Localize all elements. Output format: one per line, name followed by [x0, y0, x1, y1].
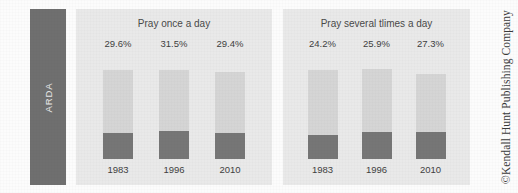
bar-wrap [159, 53, 189, 159]
plot-area: 29.6% 1983 31.5% 1996 29.4% [76, 37, 272, 177]
chart-title: Pray once a day [76, 18, 272, 29]
bar-value-label: 25.9% [363, 37, 390, 50]
source-band: ARDA [30, 9, 66, 185]
bar-category-label: 1996 [163, 163, 184, 177]
bar-group[interactable]: 31.5% 1996 [155, 37, 193, 177]
bar-wrap [362, 53, 392, 159]
bar-group[interactable]: 24.2% 1983 [304, 37, 342, 177]
bar-group[interactable]: 29.4% 2010 [211, 37, 249, 177]
bar-wrap [308, 53, 338, 159]
chart-panel-pray-once-a-day: Pray once a day 29.6% 1983 31.5% 1 [76, 9, 272, 185]
bar-category-label: 1983 [312, 163, 333, 177]
bar-fill-segment [416, 132, 446, 159]
bar-value-label: 31.5% [161, 37, 188, 50]
bar-fill-segment [308, 135, 338, 159]
bar-category-label: 2010 [420, 163, 441, 177]
bar-category-label: 2010 [219, 163, 240, 177]
bar-fill-segment [215, 133, 245, 159]
plot-area: 24.2% 1983 25.9% 1996 27.3% [283, 37, 470, 177]
bar-category-label: 1983 [107, 163, 128, 177]
bar-wrap [215, 53, 245, 159]
bar[interactable] [308, 70, 338, 159]
bar-wrap [103, 53, 133, 159]
bar-group[interactable]: 29.6% 1983 [99, 37, 137, 177]
bar-value-label: 27.3% [417, 37, 444, 50]
source-band-label: ARDA [43, 82, 54, 112]
bar-value-label: 24.2% [309, 37, 336, 50]
bar[interactable] [215, 72, 245, 159]
bar-value-label: 29.6% [105, 37, 132, 50]
figure-container: ARDA Pray once a day 29.6% 1983 31.5% [0, 0, 518, 193]
bar[interactable] [103, 70, 133, 159]
bar-group[interactable]: 25.9% 1996 [358, 37, 396, 177]
bar-group[interactable]: 27.3% 2010 [412, 37, 450, 177]
copyright-text: ©Kendall Hunt Publishing Company [500, 10, 512, 184]
bar[interactable] [362, 69, 392, 159]
chart-panel-pray-several-times-a-day: Pray several tlimes a day 24.2% 1983 25.… [283, 9, 470, 185]
bar-wrap [416, 53, 446, 159]
bar-category-label: 1996 [366, 163, 387, 177]
chart-title: Pray several tlimes a day [283, 18, 470, 29]
bar[interactable] [159, 70, 189, 159]
bar-value-label: 29.4% [217, 37, 244, 50]
bar-fill-segment [159, 131, 189, 159]
bar-fill-segment [362, 132, 392, 159]
bar-fill-segment [103, 133, 133, 159]
bar[interactable] [416, 74, 446, 159]
copyright-notice: ©Kendall Hunt Publishing Company [496, 0, 516, 193]
